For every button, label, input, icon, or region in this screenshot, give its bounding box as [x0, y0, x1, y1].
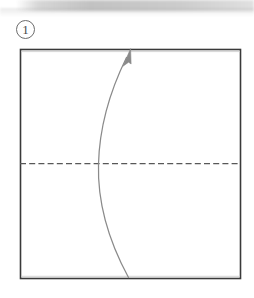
- origami-diagram: [0, 0, 254, 298]
- diagram-page: 1: [0, 0, 254, 298]
